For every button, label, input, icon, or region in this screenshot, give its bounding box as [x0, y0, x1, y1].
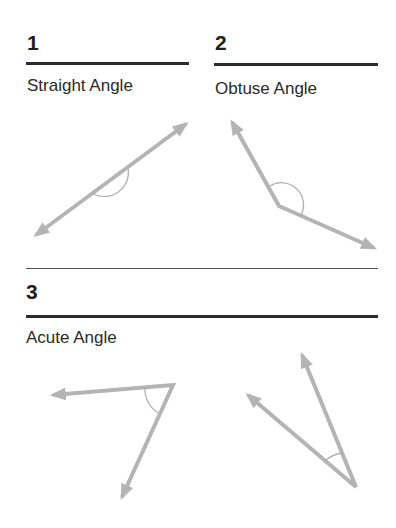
double-arrow-line-icon [36, 124, 186, 235]
angle-arc-icon [145, 387, 160, 414]
angle-arc-icon [325, 453, 343, 461]
angle-rays-icon [248, 355, 356, 487]
angle-rays-icon [53, 385, 173, 497]
angle-diagrams [0, 0, 396, 528]
acute-angle-diagram-1 [53, 385, 173, 497]
obtuse-angle-diagram [232, 122, 374, 248]
acute-angle-diagram-2 [248, 355, 356, 487]
angle-rays-icon [232, 122, 374, 248]
straight-angle-diagram [36, 124, 186, 235]
